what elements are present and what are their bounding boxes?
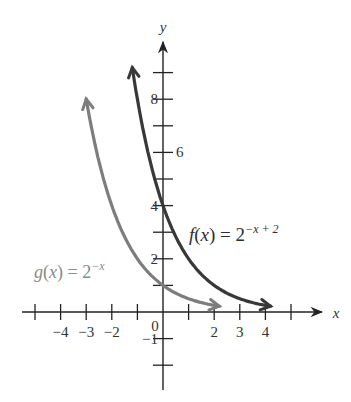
y-tick-label: 8 bbox=[151, 91, 159, 107]
curves bbox=[83, 68, 271, 310]
y-axis-label: y bbox=[158, 19, 167, 35]
exponential-graph: −4−3−2234−124680xyf(x) = 2−x + 2g(x) = 2… bbox=[0, 0, 351, 402]
x-tick-label: 3 bbox=[236, 324, 244, 340]
y-tick-label: 2 bbox=[151, 251, 159, 267]
x-tick-label: 4 bbox=[262, 324, 270, 340]
f-equation-label: f(x) = 2−x + 2 bbox=[189, 222, 279, 246]
x-axis-label: x bbox=[332, 305, 340, 321]
y-tick-label: 6 bbox=[176, 144, 184, 160]
origin-label: 0 bbox=[151, 318, 159, 334]
x-tick-label: 2 bbox=[210, 324, 218, 340]
x-tick-label: −2 bbox=[104, 324, 120, 340]
g-equation-label: g(x) = 2−x bbox=[34, 259, 105, 283]
x-tick-label: −4 bbox=[53, 324, 69, 340]
y-tick-label: 4 bbox=[151, 198, 159, 214]
x-tick-label: −3 bbox=[78, 324, 94, 340]
